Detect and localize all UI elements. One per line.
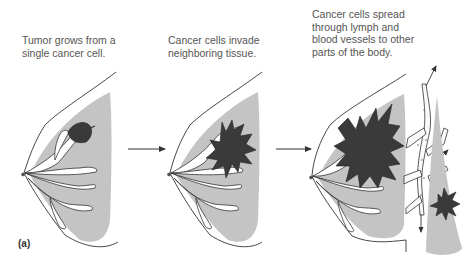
- metastasis-arrow-up: [426, 66, 436, 86]
- breast-diagram-1: [21, 72, 118, 247]
- diagram-canvas: [0, 0, 476, 267]
- breast-diagram-2: [167, 72, 262, 247]
- distant-organ: [426, 96, 462, 255]
- breast-diagram-3: [309, 66, 462, 255]
